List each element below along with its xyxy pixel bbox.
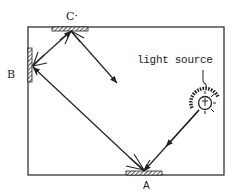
light-source-label: light source (137, 55, 213, 66)
reflection-diagram: C· B A light source (0, 0, 235, 196)
mirror-a (126, 171, 162, 175)
reflection-marks (33, 31, 150, 170)
mirror-b (28, 48, 32, 82)
mirror-b-label: B (7, 69, 15, 80)
enclosure-box (28, 27, 224, 175)
mirror-c (52, 27, 88, 31)
diagram-canvas (0, 0, 235, 196)
mirror-c-label: C· (66, 11, 78, 22)
ray-a-to-b (33, 67, 144, 171)
light-source-icon (191, 70, 218, 114)
light-rays (32, 31, 199, 171)
mirror-a-label: A (143, 181, 150, 191)
